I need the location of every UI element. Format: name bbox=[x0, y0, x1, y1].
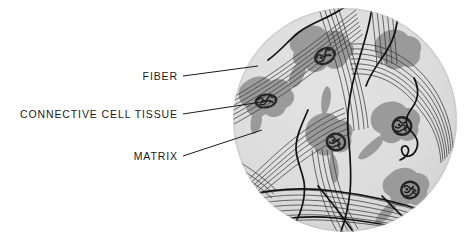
label-fiber: FIBER bbox=[143, 70, 178, 82]
microscope-field bbox=[228, 0, 457, 240]
label-matrix: MATRIX bbox=[134, 150, 178, 162]
label-connective-cell-tissue: CONNECTIVE CELL TISSUE bbox=[20, 108, 178, 120]
diagram-labels: FIBER CONNECTIVE CELL TISSUE MATRIX bbox=[20, 70, 178, 162]
connective-tissue-figure: FIBER CONNECTIVE CELL TISSUE MATRIX bbox=[0, 0, 465, 246]
